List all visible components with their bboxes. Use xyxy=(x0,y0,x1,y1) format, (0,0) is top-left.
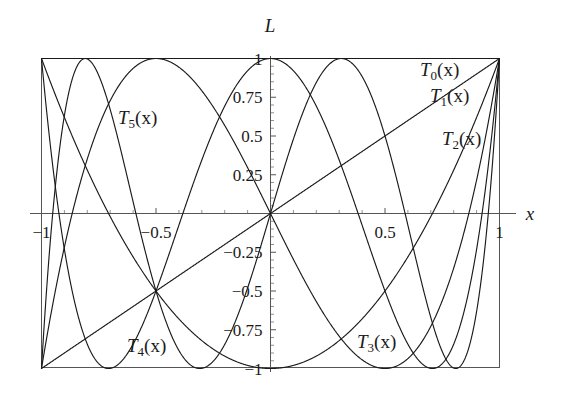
x-tick-labels: −1−0.50.51 xyxy=(32,223,503,242)
x-tick-label: 0.5 xyxy=(374,223,395,242)
y-tick-label: −1 xyxy=(244,360,262,379)
curve-label-t1: T1(x) xyxy=(430,85,469,109)
curve-label-t2: T2(x) xyxy=(442,128,481,152)
plot-canvas: −1−0.50.51 10.750.50.25−0.25−0.5−0.75−1 … xyxy=(0,0,563,393)
curve-label-t4: T4(x) xyxy=(127,335,166,359)
x-axis-name: x xyxy=(525,203,535,224)
curve-label-t3: T3(x) xyxy=(357,331,396,355)
x-tick-label: −0.5 xyxy=(141,223,172,242)
curve-labels: T0(x)T1(x)T2(x)T3(x)T4(x)T5(x) xyxy=(118,59,481,359)
y-tick-label: 0.5 xyxy=(241,127,262,146)
x-tick-label: −1 xyxy=(32,223,50,242)
x-axis xyxy=(30,208,516,214)
y-axis-name: L xyxy=(264,15,276,36)
x-tick-label: 1 xyxy=(495,223,504,242)
y-tick-label: 0.75 xyxy=(233,88,263,107)
curve-label-t5: T5(x) xyxy=(118,107,157,131)
curve-label-t0: T0(x) xyxy=(420,59,459,83)
y-tick-label: −0.5 xyxy=(232,282,263,301)
chebyshev-plot-figure: −1−0.50.51 10.750.50.25−0.25−0.5−0.75−1 … xyxy=(0,0,563,393)
